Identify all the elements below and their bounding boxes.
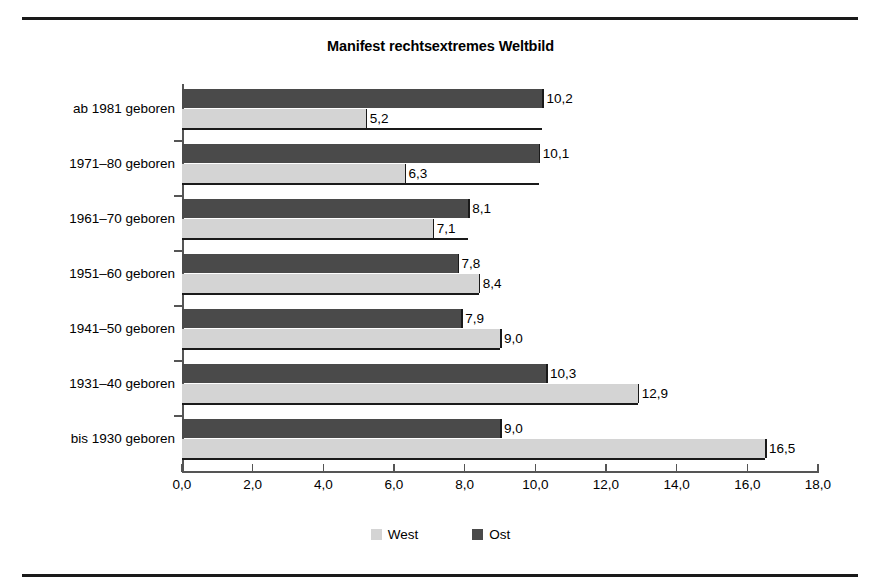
bar-value-label-ost: 9,0 bbox=[504, 421, 523, 436]
y-axis-tick bbox=[174, 305, 182, 307]
x-axis-tick-label: 14,0 bbox=[653, 477, 701, 492]
x-axis-tick bbox=[252, 464, 254, 472]
bar-end-cap bbox=[479, 274, 481, 293]
bar-group-baseline bbox=[182, 348, 500, 350]
bar-end-cap bbox=[366, 109, 368, 128]
bar-ost bbox=[182, 199, 468, 218]
x-axis-tick-label: 2,0 bbox=[229, 477, 277, 492]
bar-ost bbox=[182, 144, 539, 163]
x-axis-tick-label: 18,0 bbox=[794, 477, 842, 492]
bar-ost bbox=[182, 89, 542, 108]
bar-end-cap bbox=[539, 144, 541, 163]
y-axis-tick bbox=[174, 360, 182, 362]
legend-swatch-icon bbox=[472, 529, 483, 540]
bar-value-label-west: 5,2 bbox=[370, 111, 389, 126]
category-label: bis 1930 geboren bbox=[0, 432, 175, 446]
category-label: 1941–50 geboren bbox=[0, 322, 175, 336]
bar-end-cap bbox=[433, 219, 435, 238]
bar-group-baseline bbox=[182, 128, 542, 130]
bar-value-label-ost: 10,3 bbox=[550, 366, 576, 381]
chart-plot-area: 0,02,04,06,08,010,012,014,016,018,0ab 19… bbox=[0, 0, 881, 588]
bar-west bbox=[182, 109, 366, 128]
x-axis-tick bbox=[605, 464, 607, 472]
x-axis-tick bbox=[464, 464, 466, 472]
bar-group-baseline bbox=[182, 238, 468, 240]
bar-group-baseline bbox=[182, 458, 765, 460]
x-axis-tick bbox=[181, 464, 183, 472]
bar-value-label-west: 6,3 bbox=[409, 166, 428, 181]
x-axis-tick-label: 6,0 bbox=[370, 477, 418, 492]
category-label: 1971–80 geboren bbox=[0, 157, 175, 171]
bar-value-label-west: 7,1 bbox=[437, 221, 456, 236]
x-axis-tick bbox=[676, 464, 678, 472]
x-axis-line bbox=[182, 471, 819, 473]
bar-value-label-west: 9,0 bbox=[504, 331, 523, 346]
bar-west bbox=[182, 219, 433, 238]
y-axis-tick bbox=[174, 250, 182, 252]
bar-value-label-ost: 7,9 bbox=[465, 311, 484, 326]
bar-end-cap bbox=[458, 254, 460, 273]
bar-west bbox=[182, 164, 405, 183]
y-axis-tick bbox=[174, 195, 182, 197]
bar-value-label-ost: 10,1 bbox=[543, 146, 569, 161]
x-axis-tick bbox=[817, 464, 819, 472]
legend-label: Ost bbox=[489, 527, 510, 542]
bar-group-baseline bbox=[182, 183, 539, 185]
bar-west bbox=[182, 439, 765, 458]
category-label: ab 1981 geboren bbox=[0, 102, 175, 116]
category-label: 1951–60 geboren bbox=[0, 267, 175, 281]
x-axis-tick-label: 4,0 bbox=[299, 477, 347, 492]
x-axis-tick bbox=[323, 464, 325, 472]
category-label: 1961–70 geboren bbox=[0, 212, 175, 226]
x-axis-tick bbox=[393, 464, 395, 472]
legend-item[interactable]: West bbox=[371, 527, 419, 542]
y-axis-tick bbox=[174, 415, 182, 417]
legend-label: West bbox=[388, 527, 419, 542]
bar-ost bbox=[182, 419, 500, 438]
y-axis-tick bbox=[174, 140, 182, 142]
bar-end-cap bbox=[638, 384, 640, 403]
bar-ost bbox=[182, 309, 461, 328]
bar-value-label-ost: 7,8 bbox=[462, 256, 481, 271]
bar-value-label-west: 16,5 bbox=[769, 441, 795, 456]
bar-end-cap bbox=[468, 199, 470, 218]
x-axis-tick-label: 10,0 bbox=[511, 477, 559, 492]
bar-value-label-ost: 8,1 bbox=[472, 201, 491, 216]
bar-value-label-west: 12,9 bbox=[642, 386, 668, 401]
bar-ost bbox=[182, 364, 546, 383]
x-axis-tick bbox=[747, 464, 749, 472]
bar-end-cap bbox=[546, 364, 548, 383]
x-axis-tick-label: 0,0 bbox=[158, 477, 206, 492]
bar-group-baseline bbox=[182, 403, 638, 405]
bar-end-cap bbox=[542, 89, 544, 108]
bar-group-baseline bbox=[182, 293, 479, 295]
x-axis-tick-label: 8,0 bbox=[441, 477, 489, 492]
legend-item[interactable]: Ost bbox=[472, 527, 510, 542]
x-axis-tick bbox=[535, 464, 537, 472]
bar-value-label-ost: 10,2 bbox=[546, 91, 572, 106]
category-label: 1931–40 geboren bbox=[0, 377, 175, 391]
bar-ost bbox=[182, 254, 458, 273]
bar-end-cap bbox=[500, 329, 502, 348]
legend-swatch-icon bbox=[371, 529, 382, 540]
bar-west bbox=[182, 274, 479, 293]
bar-end-cap bbox=[765, 439, 767, 458]
x-axis-tick-label: 16,0 bbox=[723, 477, 771, 492]
bar-west bbox=[182, 329, 500, 348]
bar-value-label-west: 8,4 bbox=[483, 276, 502, 291]
bar-end-cap bbox=[500, 419, 502, 438]
bar-end-cap bbox=[405, 164, 407, 183]
bar-end-cap bbox=[461, 309, 463, 328]
x-axis-tick-label: 12,0 bbox=[582, 477, 630, 492]
chart-legend: WestOst bbox=[0, 527, 881, 542]
bar-west bbox=[182, 384, 638, 403]
